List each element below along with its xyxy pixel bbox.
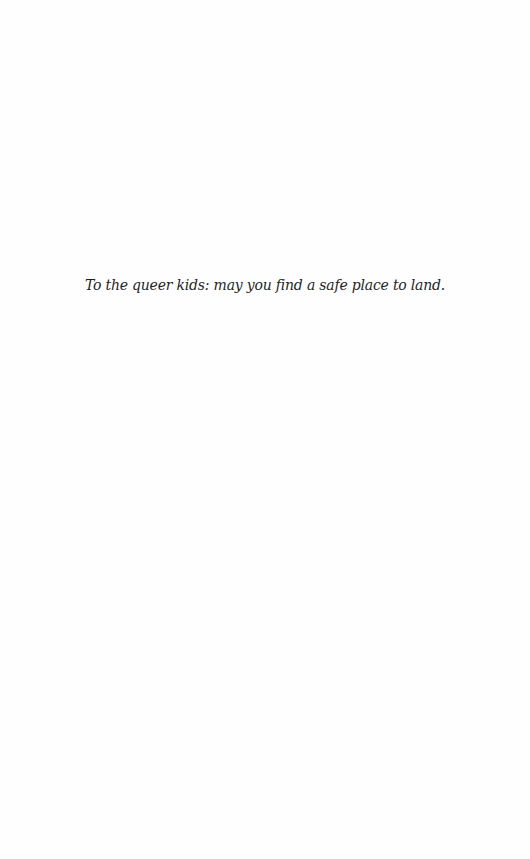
dedication-text: To the queer kids: may you find a safe p… xyxy=(0,277,530,293)
book-page: To the queer kids: may you find a safe p… xyxy=(0,0,530,859)
